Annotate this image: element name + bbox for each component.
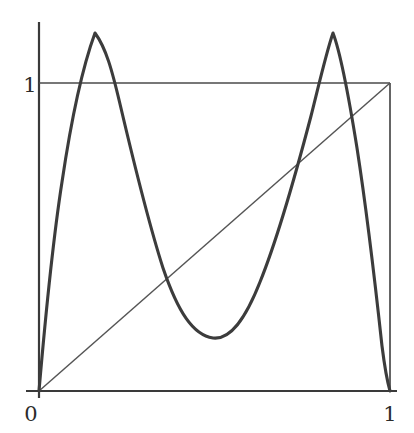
diagonal-identity-line (39, 83, 390, 391)
figure-container: 1 0 1 (0, 0, 414, 433)
x-tick-label-one: 1 (383, 402, 396, 426)
plot-canvas: 1 0 1 (0, 0, 414, 433)
x-tick-label-zero: 0 (24, 402, 37, 426)
map-curve (39, 33, 390, 391)
y-tick-label-one: 1 (23, 73, 36, 97)
